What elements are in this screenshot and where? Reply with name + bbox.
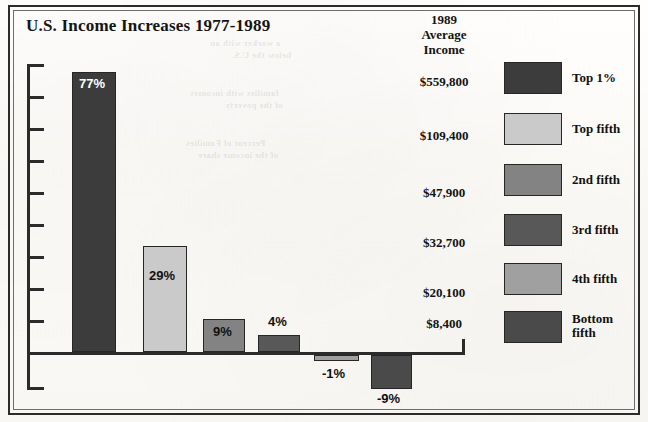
legend-swatch-bottom-fifth <box>504 311 562 343</box>
y-axis-tick <box>27 160 44 163</box>
bar-value-label-2nd-fifth: 9% <box>213 324 232 339</box>
income-value: $32,700 <box>384 235 504 251</box>
legend-swatch-top-1-percent <box>504 62 562 94</box>
bar-4th-fifth <box>314 355 359 361</box>
y-axis-tick <box>27 224 44 227</box>
income-chart-figure: a worker with an below the U.S. families… <box>0 0 648 422</box>
legend-label-2nd-fifth: 2nd fifth <box>572 173 620 187</box>
y-axis-tick <box>27 192 44 195</box>
legend-label-bottom-fifth-line1: Bottom <box>572 312 613 326</box>
legend-swatch-top-fifth <box>504 113 562 145</box>
bar-top-fifth <box>143 246 187 352</box>
y-axis-tick <box>27 128 44 131</box>
y-axis-tick <box>27 64 44 67</box>
y-axis-tick <box>27 96 44 99</box>
income-value: $559,800 <box>384 74 504 90</box>
income-value: $47,900 <box>384 185 504 201</box>
legend-swatch-4th-fifth <box>504 263 562 295</box>
bar-value-label-4th-fifth: -1% <box>322 366 345 381</box>
bar-bottom-fifth <box>371 355 412 389</box>
y-axis-line <box>27 64 30 390</box>
x-axis-end-cap <box>462 339 465 355</box>
y-axis-tick <box>27 387 44 390</box>
legend-label-4th-fifth: 4th fifth <box>572 272 617 286</box>
y-axis-tick <box>27 256 44 259</box>
bar-3rd-fifth <box>258 335 300 352</box>
legend-label-top-fifth: Top fifth <box>572 122 620 136</box>
legend-label-top-1-percent: Top 1% <box>572 71 616 85</box>
legend-swatch-2nd-fifth <box>504 164 562 196</box>
y-axis-tick <box>27 288 44 291</box>
legend-label-bottom-fifth-line2: fifth <box>572 326 613 340</box>
bar-value-label-3rd-fifth: 4% <box>268 314 287 329</box>
bar-top-1-percent <box>72 72 116 352</box>
y-axis-tick <box>27 320 44 323</box>
legend-label-3rd-fifth: 3rd fifth <box>572 223 619 237</box>
bar-value-label-bottom-fifth: -9% <box>377 391 400 406</box>
legend-swatch-3rd-fifth <box>504 214 562 246</box>
income-value: $109,400 <box>384 128 504 144</box>
income-value: $20,100 <box>384 285 504 301</box>
legend-label-bottom-fifth: Bottom fifth <box>572 312 613 340</box>
income-value: $8,400 <box>384 316 504 332</box>
bar-value-label-top-fifth: 29% <box>149 268 175 283</box>
bar-value-label-top-1-percent: 77% <box>79 76 105 91</box>
